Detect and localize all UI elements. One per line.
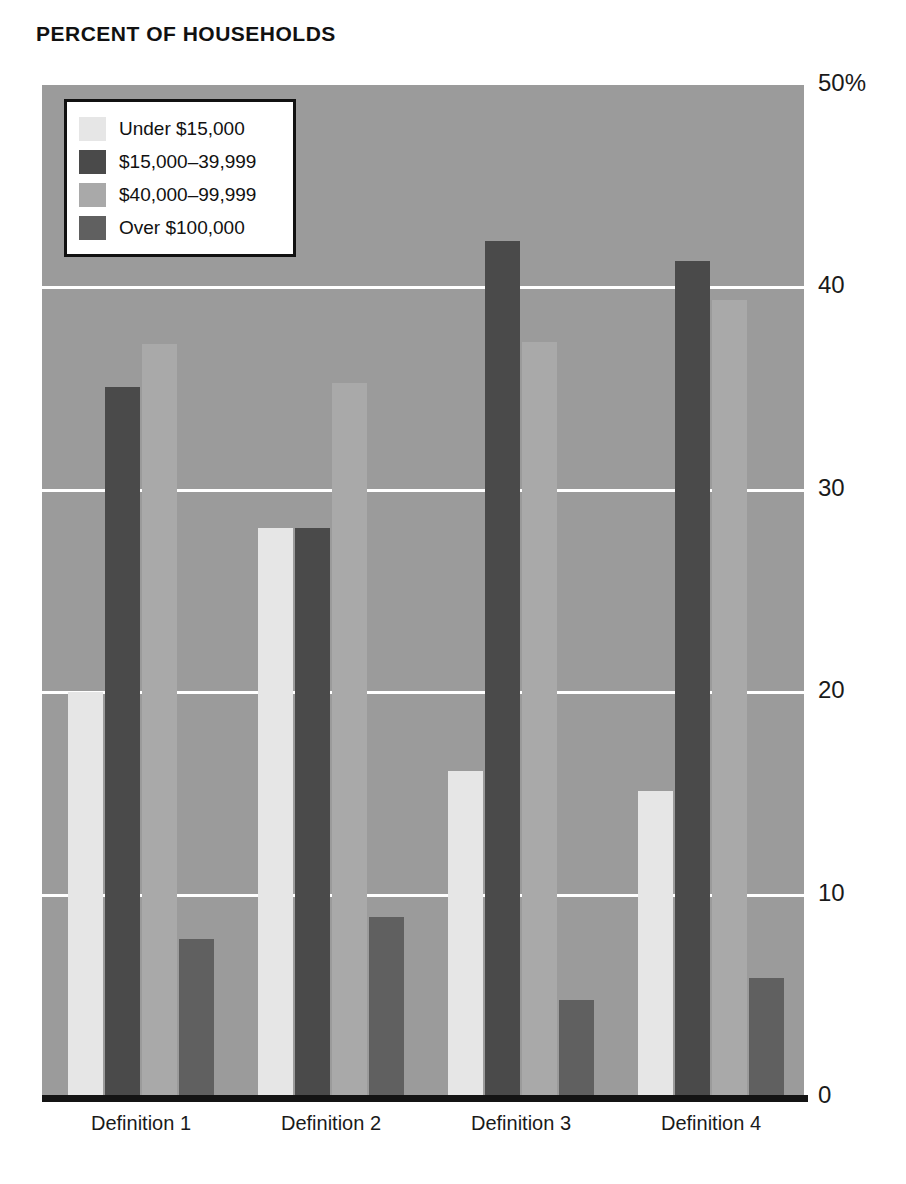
bar-4-series-4 xyxy=(749,978,784,1097)
bar-1-series-3 xyxy=(142,344,177,1097)
list-item: $15,000–39,999 xyxy=(79,145,283,178)
list-item: $40,000–99,999 xyxy=(79,178,283,211)
y-axis-tick-label: 30 xyxy=(818,474,845,502)
bar-3-series-3 xyxy=(522,342,557,1097)
legend-item-label: $40,000–99,999 xyxy=(119,184,256,206)
legend-swatch-icon xyxy=(79,150,106,174)
x-axis-tick-label: Definition 4 xyxy=(621,1112,801,1135)
bar-2-series-4 xyxy=(369,917,404,1097)
legend-item-label: $15,000–39,999 xyxy=(119,151,256,173)
chart-page: PERCENT OF HOUSEHOLDS 50%403020100 Defin… xyxy=(0,0,906,1184)
legend-item-label: Under $15,000 xyxy=(119,118,245,140)
legend-item-label: Over $100,000 xyxy=(119,217,245,239)
x-axis-line xyxy=(42,1095,808,1102)
bar-2-series-3 xyxy=(332,383,367,1097)
bar-1-series-1 xyxy=(68,692,103,1097)
bar-2-series-2 xyxy=(295,528,330,1097)
y-axis-tick-label: 20 xyxy=(818,676,845,704)
legend-swatch-icon xyxy=(79,117,106,141)
legend-swatch-icon xyxy=(79,183,106,207)
bar-3-series-4 xyxy=(559,1000,594,1097)
bar-2-series-1 xyxy=(258,528,293,1097)
list-item: Under $15,000 xyxy=(79,112,283,145)
bar-3-series-1 xyxy=(448,771,483,1097)
bar-4-series-2 xyxy=(675,261,710,1097)
bar-4-series-1 xyxy=(638,791,673,1097)
y-axis-tick-label: 0 xyxy=(818,1081,831,1109)
y-axis-tick-label: 40 xyxy=(818,271,845,299)
legend-swatch-icon xyxy=(79,216,106,240)
y-axis-tick-label: 50% xyxy=(818,69,866,97)
list-item: Over $100,000 xyxy=(79,211,283,244)
bar-4-series-3 xyxy=(712,300,747,1097)
y-axis-tick-label: 10 xyxy=(818,879,845,907)
page-title: PERCENT OF HOUSEHOLDS xyxy=(36,22,336,46)
chart-legend: Under $15,000 $15,000–39,999 $40,000–99,… xyxy=(64,99,296,257)
bar-1-series-2 xyxy=(105,387,140,1097)
x-axis-tick-label: Definition 1 xyxy=(51,1112,231,1135)
x-axis-tick-label: Definition 3 xyxy=(431,1112,611,1135)
bar-3-series-2 xyxy=(485,241,520,1097)
bar-1-series-4 xyxy=(179,939,214,1097)
x-axis-tick-label: Definition 2 xyxy=(241,1112,421,1135)
